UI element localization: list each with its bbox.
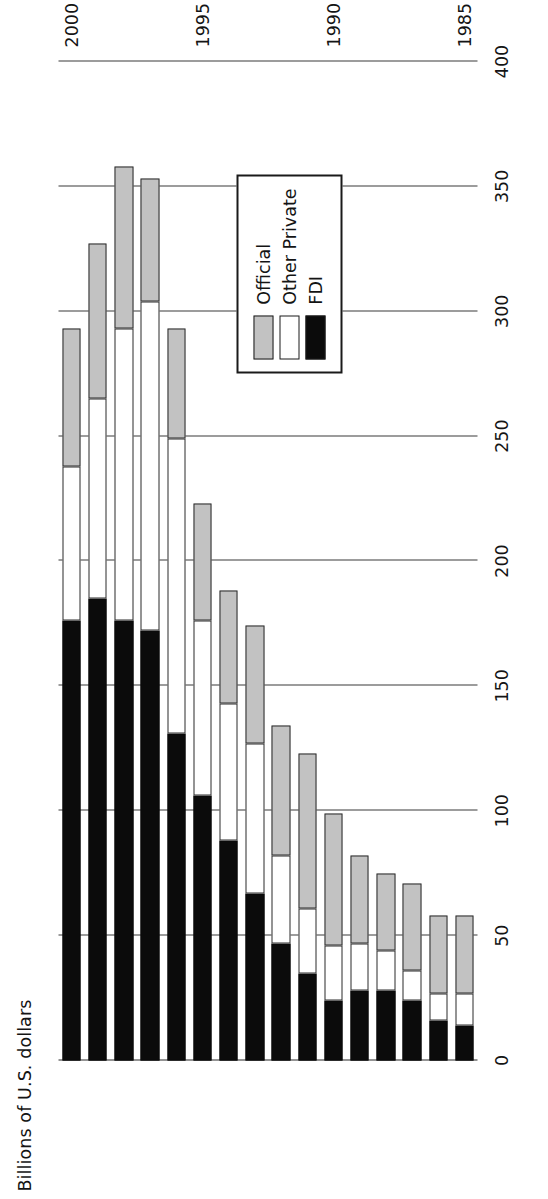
legend-swatch-other-private <box>279 315 299 359</box>
bar-segment-other-1990 <box>324 945 342 1000</box>
bar-segment-fdi-1989 <box>350 990 368 1060</box>
bar-1998 <box>114 166 132 1060</box>
bar-segment-fdi-1994 <box>219 840 237 1060</box>
bar-1997 <box>140 178 158 1060</box>
bar-segment-fdi-1999 <box>88 598 106 1060</box>
bar-segment-other-1992 <box>271 855 289 942</box>
value-tick-label-50: 50 <box>491 924 511 946</box>
bar-1985 <box>455 915 473 1060</box>
bar-1988 <box>376 873 394 1060</box>
bar-segment-other-1994 <box>219 703 237 840</box>
bar-1989 <box>350 855 368 1060</box>
chart-figure: Billions of U.S. dollars 050100150200250… <box>0 0 548 1199</box>
legend-label-fdi: FDI <box>305 275 325 304</box>
category-label-1990: 1990 <box>323 2 343 47</box>
value-tick-label-0: 0 <box>491 1054 511 1065</box>
bar-segment-official-1991 <box>298 753 316 908</box>
bar-segment-fdi-1990 <box>324 1000 342 1060</box>
legend-label-other-private: Other Private <box>279 188 299 304</box>
bar-segment-other-1995 <box>193 620 211 795</box>
axis-title: Billions of U.S. dollars <box>14 999 34 1191</box>
bar-segment-other-1997 <box>140 301 158 631</box>
bar-segment-other-1993 <box>245 743 263 893</box>
value-tick-label-300: 300 <box>491 294 511 327</box>
bar-1992 <box>271 725 289 1060</box>
bar-segment-other-1987 <box>402 970 420 1000</box>
bar-segment-other-1991 <box>298 908 316 973</box>
legend-item-official: Official <box>253 188 273 359</box>
value-tick-label-250: 250 <box>491 419 511 452</box>
bar-segment-other-2000 <box>62 466 80 621</box>
bar-segment-fdi-2000 <box>62 620 80 1060</box>
plot-area: 050100150200250300350400 198519901995200… <box>58 61 477 1060</box>
bar-segment-official-2000 <box>62 328 80 465</box>
category-label-1985: 1985 <box>454 2 474 47</box>
bar-segment-official-1998 <box>114 166 132 328</box>
bar-1994 <box>219 590 237 1060</box>
value-tick-label-150: 150 <box>491 669 511 702</box>
category-label-2000: 2000 <box>61 2 81 47</box>
bar-segment-fdi-1991 <box>298 973 316 1060</box>
value-tick-label-100: 100 <box>491 794 511 827</box>
legend-label-official: Official <box>253 243 273 304</box>
bar-segment-fdi-1992 <box>271 943 289 1060</box>
bar-segment-official-1985 <box>455 915 473 992</box>
value-tick-label-400: 400 <box>491 44 511 77</box>
bar-segment-fdi-1987 <box>402 1000 420 1060</box>
bar-1986 <box>429 915 447 1060</box>
bar-segment-other-1988 <box>376 950 394 990</box>
legend-item-fdi: FDI <box>305 188 325 359</box>
bar-1995 <box>193 503 211 1060</box>
bar-2000 <box>62 328 80 1060</box>
bar-segment-official-1994 <box>219 591 237 703</box>
bar-segment-official-1988 <box>376 873 394 950</box>
bar-segment-other-1996 <box>167 438 185 733</box>
bar-segment-other-1985 <box>455 993 473 1025</box>
bar-segment-official-1990 <box>324 813 342 945</box>
bar-segment-fdi-1996 <box>167 733 185 1060</box>
bar-1991 <box>298 753 316 1060</box>
legend-swatch-fdi <box>305 315 325 359</box>
bar-segment-official-1986 <box>429 915 447 992</box>
bar-1990 <box>324 813 342 1060</box>
bar-segment-fdi-1995 <box>193 795 211 1060</box>
value-tick-label-200: 200 <box>491 544 511 577</box>
legend-item-other-private: Other Private <box>279 188 299 359</box>
bar-segment-other-1999 <box>88 398 106 598</box>
bar-segment-other-1989 <box>350 943 368 990</box>
bar-segment-official-1987 <box>402 883 420 970</box>
bar-segment-official-1999 <box>88 243 106 398</box>
bar-segment-fdi-1993 <box>245 893 263 1060</box>
rotated-chart-canvas: Billions of U.S. dollars 050100150200250… <box>0 0 548 1199</box>
value-tick-label-350: 350 <box>491 169 511 202</box>
category-label-1995: 1995 <box>192 2 212 47</box>
chart-legend: Official Other Private FDI <box>236 174 342 373</box>
bar-1987 <box>402 883 420 1060</box>
bar-segment-official-1989 <box>350 855 368 942</box>
bar-segment-fdi-1986 <box>429 1020 447 1060</box>
bar-segment-fdi-1985 <box>455 1025 473 1060</box>
bar-segment-fdi-1998 <box>114 620 132 1060</box>
bar-segment-other-1998 <box>114 328 132 620</box>
bar-segment-official-1995 <box>193 503 211 620</box>
gridline-400 <box>58 60 477 61</box>
bar-1993 <box>245 625 263 1060</box>
bar-1996 <box>167 328 185 1060</box>
bar-segment-official-1992 <box>271 725 289 855</box>
bar-1999 <box>88 243 106 1060</box>
bar-segment-official-1996 <box>167 328 185 438</box>
bar-segment-fdi-1988 <box>376 990 394 1060</box>
bar-segment-other-1986 <box>429 993 447 1020</box>
legend-swatch-official <box>253 315 273 359</box>
bar-segment-official-1993 <box>245 625 263 742</box>
bar-segment-official-1997 <box>140 178 158 300</box>
bar-segment-fdi-1997 <box>140 630 158 1060</box>
